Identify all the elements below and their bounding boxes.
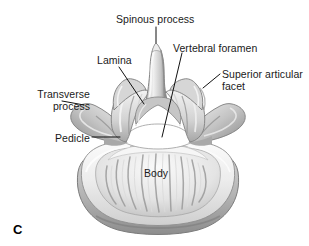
label-lamina: Lamina — [97, 55, 132, 67]
vertebral-foramen-opening — [124, 124, 192, 149]
label-spinous-process-line-1: Spinous process — [116, 14, 194, 26]
label-lamina-line-1: Lamina — [97, 55, 132, 67]
label-vertebral-foramen-line-1: Vertebral foramen — [173, 43, 257, 55]
leader-superior-articular-facet — [203, 74, 220, 88]
label-superior-articular-facet-line-1: Superior articular — [222, 69, 303, 81]
label-transverse-process-line-2: process — [10, 101, 90, 113]
label-body-line-1: Body — [144, 168, 168, 180]
label-pedicle-line-1: Pedicle — [55, 133, 90, 145]
panel-letter: C — [13, 222, 22, 237]
label-superior-articular-facet-line-2: facet — [222, 81, 303, 93]
label-transverse-process-line-1: Transverse — [10, 89, 90, 101]
vertebra-illustration — [0, 0, 309, 246]
label-pedicle: Pedicle — [55, 133, 90, 145]
label-transverse-process: Transverseprocess — [10, 89, 90, 112]
vertebral-body — [77, 141, 238, 235]
label-superior-articular-facet: Superior articularfacet — [222, 69, 303, 92]
label-spinous-process: Spinous process — [116, 14, 194, 26]
vertebra-figure: Spinous processLaminaVertebral foramenSu… — [0, 0, 309, 246]
label-vertebral-foramen: Vertebral foramen — [173, 43, 257, 55]
label-body: Body — [144, 168, 168, 180]
